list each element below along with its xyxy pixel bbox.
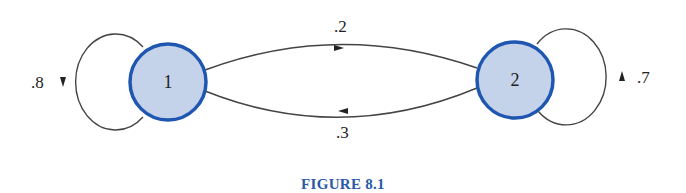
edge-1-to-2: .2 bbox=[205, 17, 477, 70]
arrowhead-icon bbox=[619, 71, 625, 81]
figure-caption: FIGURE 8.1 bbox=[0, 176, 686, 193]
arrowhead-icon bbox=[60, 77, 66, 87]
edge-label-1-2: .2 bbox=[334, 17, 347, 36]
edge-label-1-1: .8 bbox=[31, 73, 44, 92]
node-label-2: 2 bbox=[511, 70, 520, 90]
arrowhead-icon bbox=[338, 108, 348, 114]
edge-2-to-1: .3 bbox=[205, 88, 477, 142]
state-node-1: 1 bbox=[130, 44, 206, 120]
state-node-2: 2 bbox=[477, 42, 553, 118]
arrowhead-icon bbox=[334, 45, 344, 51]
node-label-1: 1 bbox=[164, 72, 173, 92]
edge-1-to-1: .8 bbox=[31, 34, 143, 130]
edge-label-2-2: .7 bbox=[637, 68, 650, 87]
state-diagram: .8 .7 .2 .3 1 2 bbox=[0, 0, 686, 193]
edge-label-2-1: .3 bbox=[336, 123, 349, 142]
